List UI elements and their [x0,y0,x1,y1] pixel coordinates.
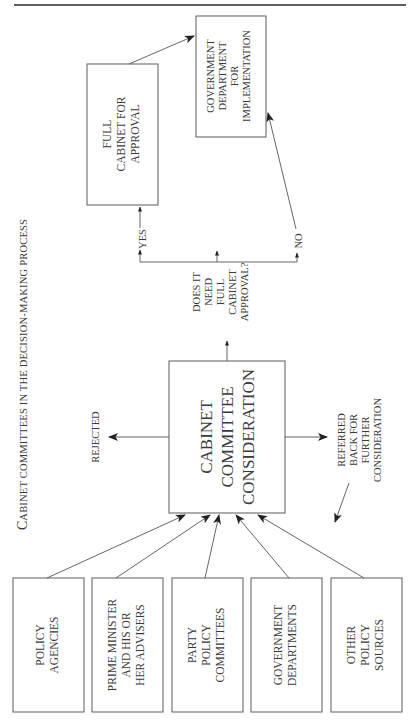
source-arrows [47,515,364,578]
cabinet-committee-consideration-box: CABINET COMMITTEE CONSIDERATION [169,361,285,513]
svg-text:COMMITTEE: COMMITTEE [218,386,237,487]
svg-text:APPROVAL: APPROVAL [129,104,141,163]
svg-text:POLICY: POLICY [34,624,46,666]
svg-text:NO: NO [293,233,304,249]
svg-text:APPROVAL?: APPROVAL? [239,262,250,321]
svg-text:CABINET FOR: CABINET FOR [115,96,127,171]
svg-text:DEPARTMENT: DEPARTMENT [217,41,228,111]
svg-text:AGENCIES: AGENCIES [48,617,60,674]
svg-text:NEED: NEED [203,278,214,306]
no-branch: NO [268,113,304,262]
svg-text:POLICY: POLICY [359,624,371,666]
svg-text:FOR: FOR [229,66,240,86]
source-box-government-departments: GOVERNMENT DEPARTMENTS [251,578,322,712]
svg-text:REFERRED: REFERRED [336,413,347,467]
government-department-implementation-box: GOVERNMENT DEPARTMENT FOR IMPLEMENTATION [196,16,266,137]
svg-text:AND HIS OR: AND HIS OR [120,612,132,678]
rejected-outcome: REJECTED [90,411,169,463]
svg-text:CONSIDERATION: CONSIDERATION [372,398,383,482]
svg-text:GOVERNMENT: GOVERNMENT [272,605,284,686]
svg-text:SOURCES: SOURCES [373,619,385,671]
svg-text:IMPLEMENTATION: IMPLEMENTATION [241,30,252,122]
decision-flow-diagram: CABINET COMMITTEES IN THE DECISION-MAKIN… [0,0,417,724]
svg-text:DOES IT: DOES IT [191,271,202,312]
svg-text:CABINET: CABINET [227,269,238,315]
svg-text:OTHER: OTHER [345,626,357,665]
svg-text:PARTY: PARTY [186,626,198,663]
svg-text:COMMITTEES: COMMITTEES [214,608,226,683]
figure-title: CABINET COMMITTEES IN THE DECISION-MAKIN… [15,219,30,530]
svg-text:BACK FOR: BACK FOR [348,414,359,466]
source-box-other-policy-sources: OTHER POLICY SOURCES [331,578,402,712]
svg-text:CONSIDERATION: CONSIDERATION [239,369,258,505]
svg-text:FULL: FULL [101,120,113,149]
svg-text:CABINET COMMITTEES IN THE DECI: CABINET COMMITTEES IN THE DECISION-MAKIN… [15,219,30,530]
referred-return-arrow [335,483,349,522]
svg-text:FULL: FULL [215,279,226,305]
svg-text:CABINET: CABINET [197,400,216,474]
svg-text:GOVERNMENT: GOVERNMENT [205,39,216,113]
yes-branch: YES [137,207,148,262]
approval-decision: DOES IT NEED FULL CABINET APPROVAL? [140,251,297,361]
source-box-party-policy-committees: PARTY POLICY COMMITTEES [172,578,243,712]
source-box-prime-minister: PRIME MINISTER AND HIS OR HER ADVISERS [92,578,163,712]
svg-text:FURTHER: FURTHER [360,416,371,463]
full-cabinet-approval-box: FULL CABINET FOR APPROVAL [87,36,194,205]
svg-text:POLICY: POLICY [200,624,212,666]
source-box-policy-agencies: POLICY AGENCIES [13,578,84,712]
svg-text:PRIME MINISTER: PRIME MINISTER [106,599,118,692]
svg-text:YES: YES [137,229,148,249]
svg-text:HER ADVISERS: HER ADVISERS [134,604,146,685]
referred-back-outcome: REFERRED BACK FOR FURTHER CONSIDERATION [285,398,383,522]
svg-text:REJECTED: REJECTED [90,411,101,463]
svg-text:DEPARTMENTS: DEPARTMENTS [286,604,298,686]
